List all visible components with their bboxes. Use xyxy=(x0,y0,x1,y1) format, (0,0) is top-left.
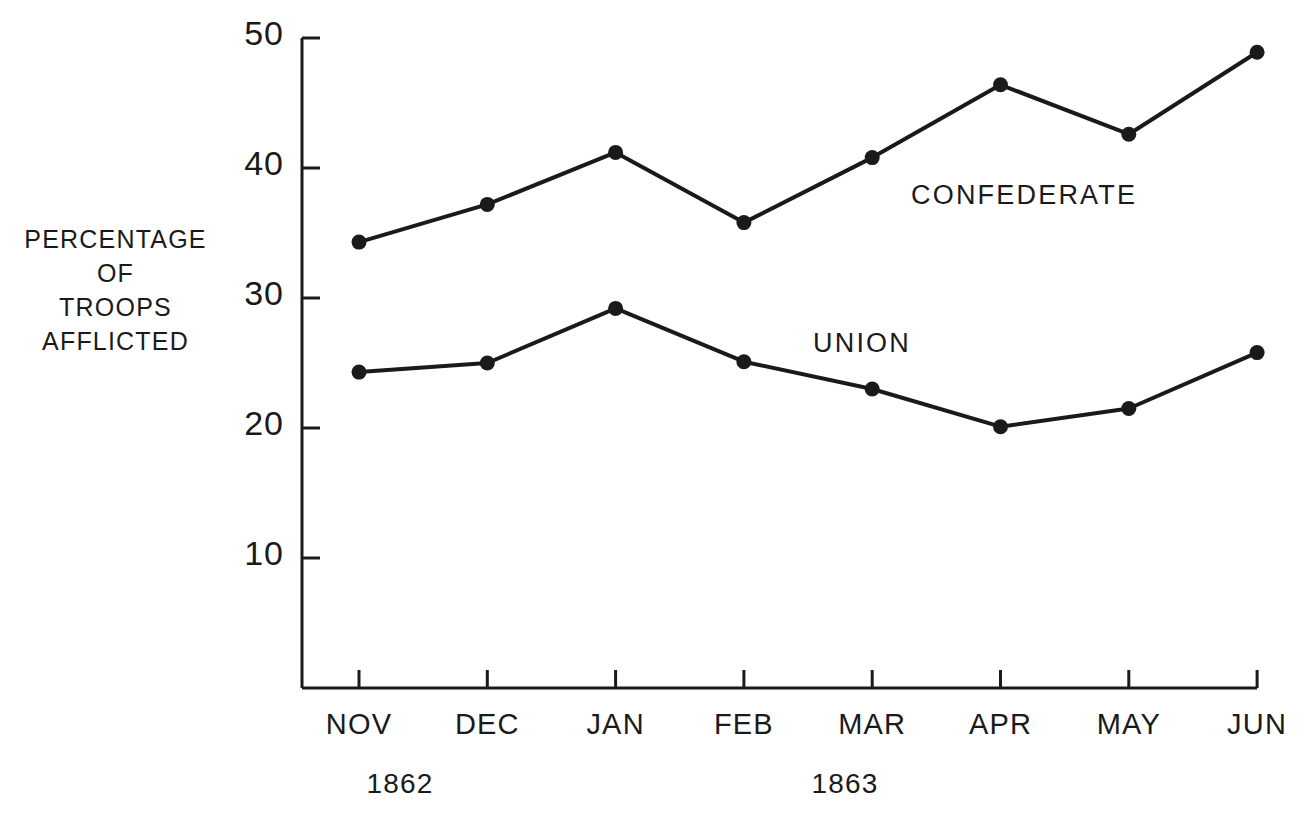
data-point xyxy=(608,145,623,160)
data-point xyxy=(736,354,751,369)
y-axis-tick-label: 50 xyxy=(214,14,284,53)
x-axis-tick-label: MAR xyxy=(807,708,937,741)
y-axis-title-line-2: OF xyxy=(8,256,223,290)
data-point xyxy=(352,365,367,380)
data-point xyxy=(1250,345,1265,360)
data-point xyxy=(1121,127,1136,142)
data-point xyxy=(1250,45,1265,60)
x-axis-tick-label: DEC xyxy=(422,708,552,741)
x-axis-tick-label: NOV xyxy=(294,708,424,741)
x-axis-tick-label: APR xyxy=(936,708,1066,741)
series-line-confederate xyxy=(359,52,1257,242)
x-axis-year-label: 1863 xyxy=(765,768,925,800)
x-axis-tick-label: JUN xyxy=(1192,708,1307,741)
chart-axes xyxy=(302,38,1257,688)
series-label-union: UNION xyxy=(813,328,911,359)
x-axis-tick-label: FEB xyxy=(679,708,809,741)
x-axis-tick-label: JAN xyxy=(551,708,681,741)
data-point xyxy=(608,301,623,316)
y-axis-tick-label: 10 xyxy=(214,534,284,573)
data-point xyxy=(736,215,751,230)
y-axis-title-line-1: PERCENTAGE xyxy=(8,222,223,256)
data-point xyxy=(1121,401,1136,416)
y-axis-tick-label: 20 xyxy=(214,404,284,443)
x-axis-tick-label: MAY xyxy=(1064,708,1194,741)
chart-container: PERCENTAGE OF TROOPS AFFLICTED 504030201… xyxy=(0,0,1307,821)
data-point xyxy=(865,382,880,397)
chart-series xyxy=(352,45,1265,434)
y-axis-title-line-3: TROOPS xyxy=(8,290,223,324)
y-axis-title-line-4: AFFLICTED xyxy=(8,324,223,358)
x-axis-year-label: 1862 xyxy=(320,768,480,800)
chart-plot-svg xyxy=(0,0,1307,821)
y-axis-tick-label: 30 xyxy=(214,274,284,313)
series-label-confederate: CONFEDERATE xyxy=(911,180,1137,211)
data-point xyxy=(480,356,495,371)
data-point xyxy=(993,419,1008,434)
data-point xyxy=(993,77,1008,92)
data-point xyxy=(865,150,880,165)
data-point xyxy=(480,197,495,212)
y-axis-title: PERCENTAGE OF TROOPS AFFLICTED xyxy=(8,222,223,358)
y-axis-tick-label: 40 xyxy=(214,144,284,183)
data-point xyxy=(352,235,367,250)
